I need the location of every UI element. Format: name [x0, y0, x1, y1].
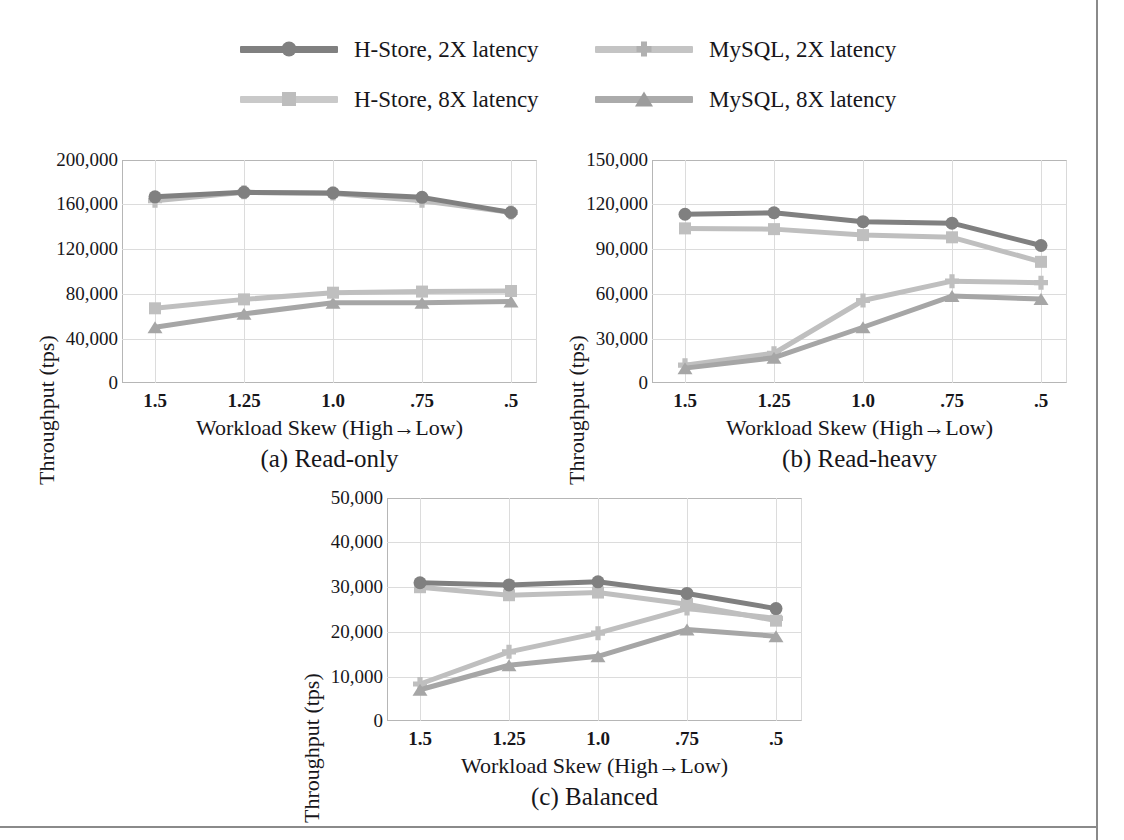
legend-label: MySQL, 8X latency — [709, 88, 896, 111]
legend-label: H-Store, 8X latency — [354, 88, 539, 111]
square-marker-icon — [1035, 256, 1047, 268]
plus-marker-icon — [1034, 276, 1048, 290]
y-tick: 0 — [374, 710, 384, 732]
square-marker-icon — [238, 293, 250, 305]
square-marker-icon — [946, 231, 958, 243]
legend-item-mysql-8x: MySQL, 8X latency — [595, 82, 896, 116]
circle-marker-icon — [327, 186, 340, 199]
square-marker-icon — [592, 587, 604, 599]
square-marker-icon — [679, 222, 691, 234]
y-tick: 0 — [109, 372, 119, 394]
legend-item-hstore-2x: H-Store, 2X latency — [240, 32, 539, 66]
x-tick: 1.5 — [408, 728, 432, 750]
y-tick: 120,000 — [586, 193, 648, 215]
y-tick: 40,000 — [331, 531, 383, 553]
circle-marker-icon — [857, 215, 870, 228]
square-marker-icon — [149, 302, 161, 314]
x-tick: 1.5 — [143, 390, 167, 412]
x-tick: .75 — [410, 390, 434, 412]
x-tick: 1.0 — [321, 390, 345, 412]
y-tick: 80,000 — [66, 283, 118, 305]
plot-area-read-only — [122, 160, 537, 383]
series-layer — [387, 498, 802, 721]
plus-marker-icon — [502, 645, 516, 659]
circle-marker-icon — [681, 587, 694, 600]
plus-marker-icon — [595, 39, 693, 59]
legend-item-mysql-2x: MySQL, 2X latency — [595, 32, 896, 66]
chart-caption: (a) Read-only — [122, 445, 537, 473]
y-tick: 30,000 — [596, 328, 648, 350]
y-tick: 30,000 — [331, 576, 383, 598]
square-marker-icon — [416, 286, 428, 298]
x-tick: .5 — [769, 728, 783, 750]
plus-marker-icon — [591, 626, 605, 640]
plot-area-read-heavy — [652, 160, 1067, 383]
series-layer — [122, 160, 537, 383]
circle-marker-icon — [416, 191, 429, 204]
square-marker-icon — [505, 285, 517, 297]
y-tick: 160,000 — [56, 193, 118, 215]
y-tick-labels: 50,000 40,000 30,000 20,000 10,000 0 — [265, 478, 383, 738]
square-marker-icon — [681, 598, 693, 610]
x-tick: .75 — [940, 390, 964, 412]
circle-marker-icon — [414, 576, 427, 589]
y-tick: 60,000 — [596, 283, 648, 305]
y-tick: 40,000 — [66, 328, 118, 350]
chart-legend: H-Store, 2X latency MySQL, 2X latency H-… — [240, 28, 920, 120]
square-marker-icon — [857, 229, 869, 241]
circle-marker-icon — [679, 208, 692, 221]
y-tick: 120,000 — [56, 238, 118, 260]
triangle-marker-icon — [595, 89, 693, 109]
circle-marker-icon — [238, 186, 251, 199]
x-tick: .75 — [675, 728, 699, 750]
y-tick: 50,000 — [331, 487, 383, 509]
circle-marker-icon — [770, 602, 783, 615]
legend-label: H-Store, 2X latency — [354, 38, 539, 61]
chart-balanced: Throughput (tps) 50,000 40,000 30,000 20… — [265, 478, 810, 808]
x-tick: 1.5 — [673, 390, 697, 412]
x-tick: 1.0 — [586, 728, 610, 750]
circle-marker-icon — [768, 206, 781, 219]
circle-marker-icon — [592, 575, 605, 588]
x-axis-label: Workload Skew (High→Low) — [122, 415, 537, 441]
x-tick: 1.25 — [757, 390, 790, 412]
circle-marker-icon — [1035, 239, 1048, 252]
y-tick: 150,000 — [586, 149, 648, 171]
y-tick: 200,000 — [56, 149, 118, 171]
y-tick: 90,000 — [596, 238, 648, 260]
x-tick: 1.25 — [227, 390, 260, 412]
x-tick: .5 — [504, 390, 518, 412]
x-tick: 1.0 — [851, 390, 875, 412]
figure-page: H-Store, 2X latency MySQL, 2X latency H-… — [0, 0, 1124, 840]
chart-read-only: Throughput (tps) 200,000 160,000 120,000… — [0, 140, 545, 470]
series-layer — [652, 160, 1067, 383]
chart-read-heavy: Throughput (tps) 150,000 120,000 90,000 … — [530, 140, 1075, 470]
series-h-store-8x-latency — [679, 222, 1047, 267]
page-bottom-border — [0, 826, 1098, 828]
x-axis-label: Workload Skew (High→Low) — [387, 753, 802, 779]
square-marker-icon — [327, 287, 339, 299]
page-right-border — [1096, 0, 1098, 840]
chart-caption: (b) Read-heavy — [652, 445, 1067, 473]
y-tick-labels: 200,000 160,000 120,000 80,000 40,000 0 — [0, 140, 118, 400]
x-axis-label: Workload Skew (High→Low) — [652, 415, 1067, 441]
square-marker-icon — [240, 89, 338, 109]
series-h-store-2x-latency — [149, 186, 518, 219]
y-tick: 0 — [639, 372, 649, 394]
y-tick: 10,000 — [331, 666, 383, 688]
x-tick: 1.25 — [492, 728, 525, 750]
circle-marker-icon — [240, 39, 338, 59]
circle-marker-icon — [149, 190, 162, 203]
circle-marker-icon — [946, 217, 959, 230]
chart-caption: (c) Balanced — [387, 783, 802, 811]
legend-item-hstore-8x: H-Store, 8X latency — [240, 82, 539, 116]
square-marker-icon — [768, 223, 780, 235]
circle-marker-icon — [503, 578, 516, 591]
plot-area-balanced — [387, 498, 802, 721]
square-marker-icon — [770, 615, 782, 627]
x-tick: .5 — [1034, 390, 1048, 412]
plus-marker-icon — [945, 274, 959, 288]
y-tick: 20,000 — [331, 621, 383, 643]
circle-marker-icon — [505, 206, 518, 219]
y-tick-labels: 150,000 120,000 90,000 60,000 30,000 0 — [530, 140, 648, 400]
